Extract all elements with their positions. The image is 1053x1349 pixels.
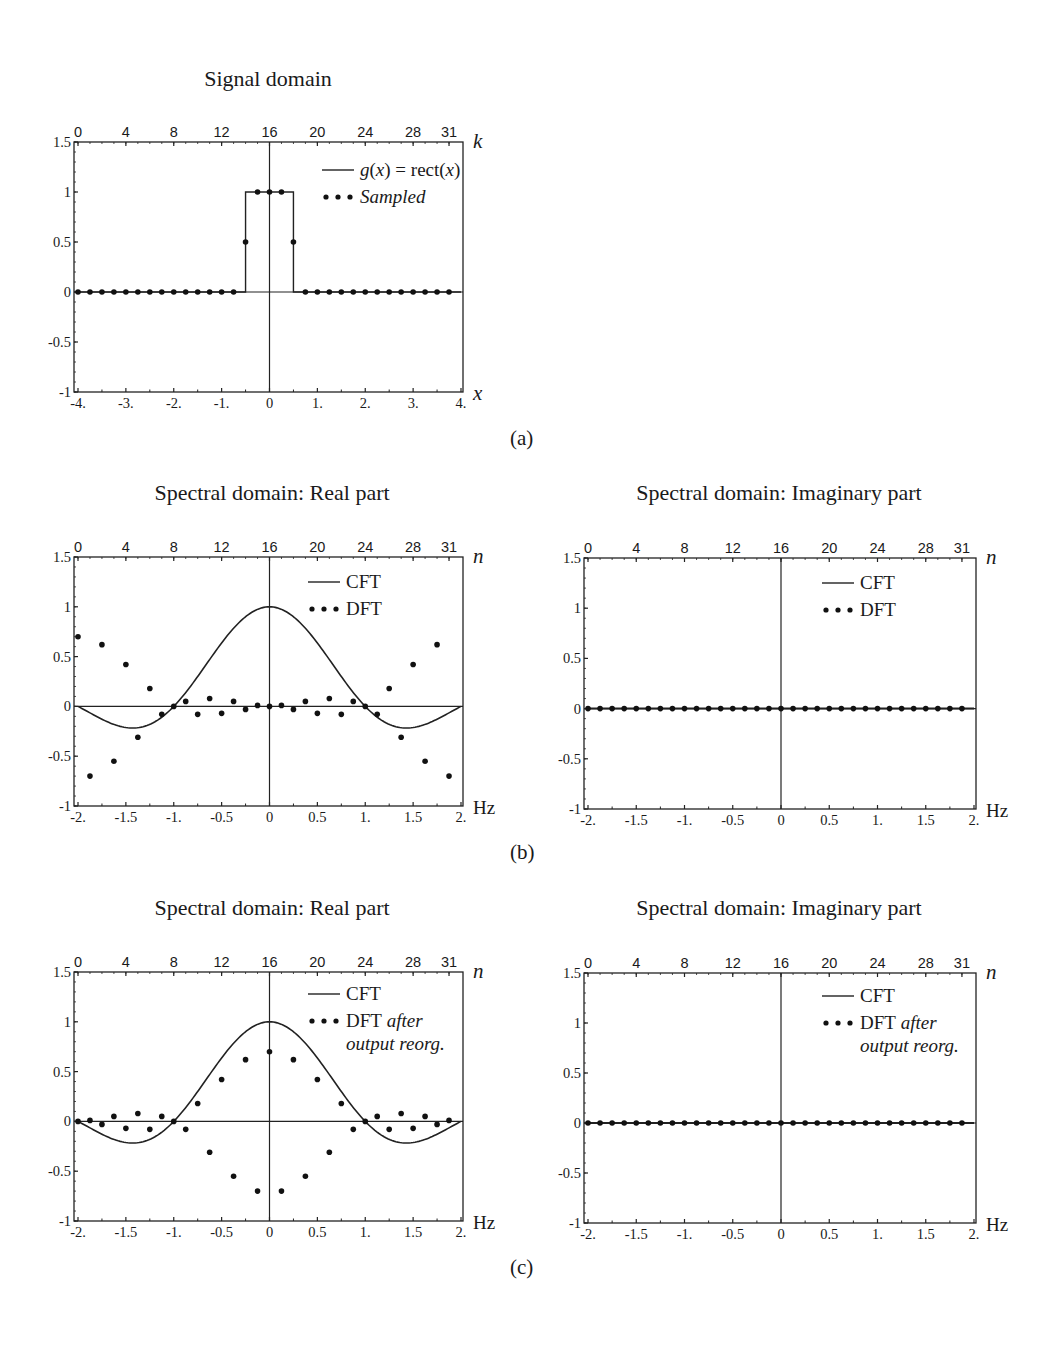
top-axis-label: n bbox=[986, 545, 997, 569]
x-tick-label: -2. bbox=[70, 1224, 86, 1240]
plot-frame bbox=[584, 973, 976, 1223]
y-tick-label: -1 bbox=[59, 1213, 71, 1229]
top-tick-label: 31 bbox=[954, 955, 970, 971]
y-tick-label: 0.5 bbox=[53, 1064, 71, 1080]
y-tick-label: -1 bbox=[569, 801, 581, 817]
x-tick-label: 0.5 bbox=[820, 1226, 838, 1242]
data-point bbox=[279, 703, 285, 709]
top-tick-label: 4 bbox=[122, 124, 130, 140]
x-tick-label: 0.5 bbox=[308, 1224, 326, 1240]
x-tick-label: 1.5 bbox=[404, 809, 422, 825]
data-point bbox=[422, 289, 428, 295]
data-point bbox=[410, 289, 416, 295]
x-tick-label: 2. bbox=[360, 395, 371, 411]
top-tick-label: 28 bbox=[405, 954, 421, 970]
data-point bbox=[231, 699, 237, 705]
legend-dot-swatch bbox=[847, 607, 852, 612]
legend: g(x) = rect(x)Sampled bbox=[322, 159, 460, 207]
data-point bbox=[279, 189, 285, 195]
legend-dot-swatch bbox=[823, 607, 828, 612]
data-point bbox=[386, 686, 392, 692]
data-point bbox=[123, 662, 129, 668]
legend-dot-swatch bbox=[321, 606, 326, 611]
data-point bbox=[111, 758, 117, 764]
top-tick-label: 4 bbox=[632, 955, 640, 971]
data-point bbox=[99, 642, 105, 648]
y-tick-label: 0 bbox=[574, 701, 581, 717]
x-tick-label: 1. bbox=[872, 812, 883, 828]
x-axis-label: Hz bbox=[473, 797, 495, 818]
data-point bbox=[621, 706, 627, 712]
top-tick-label: 4 bbox=[122, 954, 130, 970]
data-point bbox=[87, 289, 93, 295]
data-point bbox=[87, 773, 93, 779]
data-point bbox=[195, 712, 201, 718]
top-tick-label: 16 bbox=[261, 124, 277, 140]
data-point bbox=[434, 1122, 440, 1128]
data-point bbox=[350, 699, 356, 705]
legend-dot-swatch bbox=[333, 1018, 338, 1023]
plot-frame bbox=[584, 558, 976, 809]
data-point bbox=[339, 1101, 345, 1107]
y-tick-label: 1 bbox=[64, 1014, 71, 1030]
top-tick-label: 8 bbox=[170, 954, 178, 970]
data-point bbox=[243, 707, 249, 713]
data-point bbox=[863, 1120, 869, 1126]
data-point bbox=[778, 706, 784, 712]
data-point bbox=[670, 706, 676, 712]
y-tick-label: 1 bbox=[574, 600, 581, 616]
figure-canvas: -4.-3.-2.-1.01.2.3.4.0481216202428311.51… bbox=[0, 0, 1053, 1349]
data-point bbox=[875, 706, 881, 712]
x-tick-label: 4. bbox=[456, 395, 467, 411]
data-point bbox=[422, 1114, 428, 1120]
x-tick-label: 1. bbox=[872, 1226, 883, 1242]
legend-label: Sampled bbox=[360, 186, 426, 207]
data-point bbox=[207, 696, 213, 702]
top-tick-label: 24 bbox=[869, 540, 885, 556]
legend-label: DFT bbox=[860, 599, 896, 620]
data-point bbox=[87, 1118, 93, 1124]
top-tick-label: 0 bbox=[74, 124, 82, 140]
data-point bbox=[159, 1114, 165, 1120]
top-tick-label: 0 bbox=[584, 955, 592, 971]
data-point bbox=[434, 289, 440, 295]
data-point bbox=[633, 706, 639, 712]
top-tick-label: 16 bbox=[261, 539, 277, 555]
legend: CFTDFT afteroutput reorg. bbox=[308, 983, 445, 1054]
legend-label: CFT bbox=[346, 571, 381, 592]
x-tick-label: -0.5 bbox=[721, 1226, 744, 1242]
data-point bbox=[790, 1120, 796, 1126]
x-tick-label: 0 bbox=[266, 395, 273, 411]
x-tick-label: -1. bbox=[677, 812, 693, 828]
data-point bbox=[633, 1120, 639, 1126]
data-point bbox=[350, 289, 356, 295]
legend-label: DFT after bbox=[860, 1012, 937, 1033]
top-tick-label: 8 bbox=[680, 540, 688, 556]
data-point bbox=[135, 289, 141, 295]
data-point bbox=[899, 1120, 905, 1126]
top-tick-label: 12 bbox=[214, 954, 230, 970]
data-point bbox=[207, 1149, 213, 1155]
legend-dot-swatch bbox=[333, 606, 338, 611]
y-tick-label: -0.5 bbox=[558, 1165, 581, 1181]
legend-dot-swatch bbox=[835, 607, 840, 612]
data-point bbox=[111, 289, 117, 295]
data-point bbox=[911, 706, 917, 712]
data-point bbox=[730, 1120, 736, 1126]
x-tick-label: 0 bbox=[777, 1226, 784, 1242]
data-point bbox=[923, 706, 929, 712]
x-tick-label: -3. bbox=[118, 395, 134, 411]
data-point bbox=[585, 1120, 591, 1126]
x-axis-label: Hz bbox=[986, 800, 1008, 821]
top-tick-label: 12 bbox=[725, 540, 741, 556]
y-tick-label: 0.5 bbox=[53, 649, 71, 665]
top-tick-label: 28 bbox=[918, 540, 934, 556]
legend-dot-swatch bbox=[335, 194, 340, 199]
x-tick-label: 1. bbox=[312, 395, 323, 411]
data-point bbox=[183, 699, 189, 705]
data-point bbox=[207, 289, 213, 295]
x-tick-label: 2. bbox=[969, 812, 980, 828]
data-point bbox=[183, 289, 189, 295]
data-point bbox=[135, 734, 141, 740]
legend-label: CFT bbox=[860, 572, 895, 593]
